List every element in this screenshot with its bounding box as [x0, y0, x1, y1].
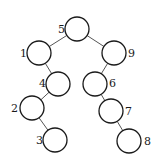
tree-edge-9-6	[101, 63, 107, 74]
node-circle	[99, 99, 123, 123]
tree-node-7: 7	[99, 99, 132, 123]
node-circle	[46, 72, 70, 96]
tree-edge-1-4	[45, 63, 51, 74]
tree-node-9: 9	[102, 41, 135, 65]
tree-node-2: 2	[11, 96, 44, 120]
node-label: 5	[58, 23, 65, 36]
tree-node-1: 1	[20, 41, 51, 65]
tree-node-8: 8	[117, 129, 151, 153]
node-label: 1	[20, 47, 27, 60]
node-circle	[65, 17, 89, 41]
tree-edge-5-9	[87, 36, 104, 47]
tree-node-4: 4	[39, 72, 70, 96]
node-label: 9	[128, 47, 135, 60]
tree-edge-5-1	[49, 35, 67, 46]
tree-edge-7-8	[117, 121, 123, 130]
tree-edge-2-3	[39, 118, 48, 131]
tree-diagram: 519462738	[0, 0, 158, 160]
tree-node-5: 5	[58, 17, 89, 41]
node-label: 3	[36, 134, 43, 147]
node-circle	[83, 72, 107, 96]
tree-node-6: 6	[83, 72, 116, 96]
node-circle	[27, 41, 51, 65]
tree-edge-4-2	[41, 92, 49, 100]
tree-edge-6-7	[101, 94, 105, 100]
tree-nodes: 519462738	[11, 17, 151, 153]
node-circle	[43, 128, 67, 152]
node-label: 2	[11, 102, 18, 115]
node-label: 6	[109, 77, 116, 90]
node-label: 7	[125, 105, 132, 118]
node-label: 4	[39, 77, 46, 90]
node-circle	[20, 96, 44, 120]
node-circle	[102, 41, 126, 65]
node-circle	[117, 129, 141, 153]
tree-node-3: 3	[36, 128, 67, 152]
node-label: 8	[144, 135, 151, 148]
